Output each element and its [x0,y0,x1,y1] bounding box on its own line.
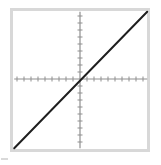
scan-artifact [1,158,8,160]
coordinate-plane-svg [0,0,161,165]
graph-figure [0,0,161,165]
